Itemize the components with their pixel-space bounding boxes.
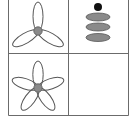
figure-grid — [0, 0, 134, 123]
cell-top-left — [10, 2, 65, 50]
cell-bottom-left — [11, 61, 66, 113]
cell-top-right — [86, 3, 110, 42]
flower-center-icon — [34, 84, 42, 92]
propeller-hub-icon — [34, 27, 42, 35]
black-dot-icon — [94, 3, 102, 11]
grid-lines — [9, 0, 129, 116]
stacked-ellipses-icon — [86, 13, 110, 42]
three-petal-propeller-icon — [10, 2, 65, 50]
